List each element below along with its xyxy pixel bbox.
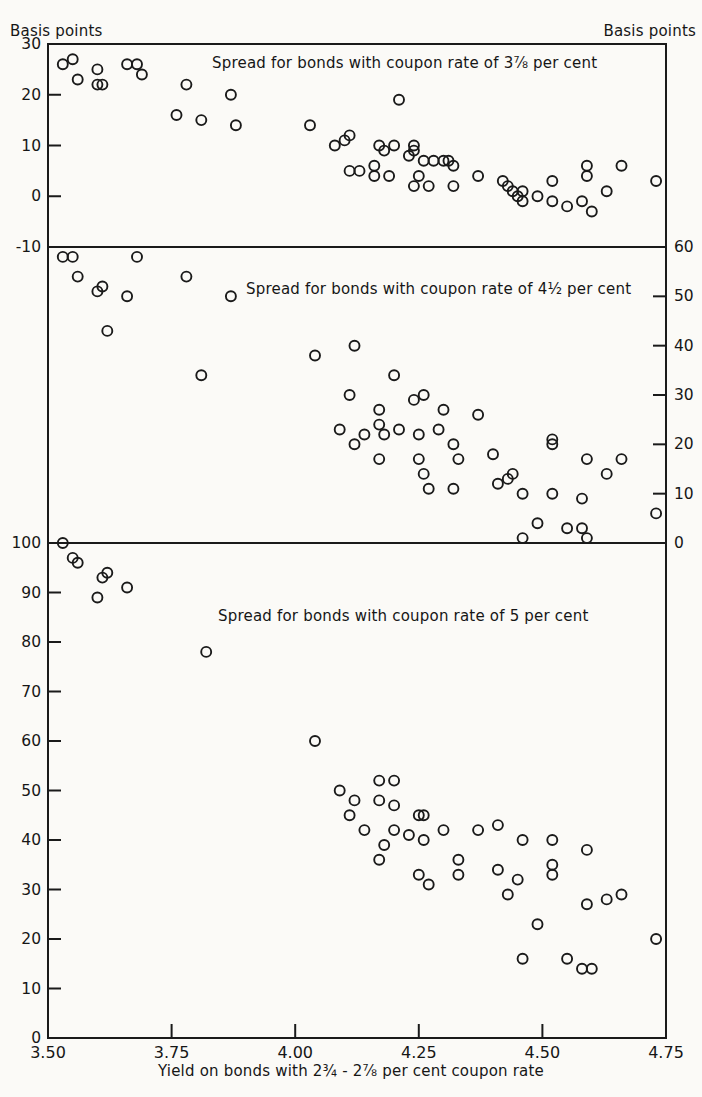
y-tick-label: 10 xyxy=(21,137,41,155)
data-point xyxy=(577,196,587,206)
data-point xyxy=(582,454,592,464)
y-tick-label: 50 xyxy=(21,782,41,800)
panel2-title: Spread for bonds with coupon rate of 4½ … xyxy=(246,280,631,298)
data-point xyxy=(414,171,424,181)
data-point xyxy=(602,894,612,904)
data-point xyxy=(424,880,434,890)
data-point xyxy=(369,161,379,171)
data-point xyxy=(547,489,557,499)
data-point xyxy=(394,425,404,435)
x-tick-label: 4.25 xyxy=(401,1043,437,1062)
data-point xyxy=(73,272,83,282)
data-point xyxy=(137,70,147,80)
data-point xyxy=(58,59,68,69)
data-point xyxy=(345,810,355,820)
data-point xyxy=(350,439,360,449)
data-point xyxy=(493,479,503,489)
data-point xyxy=(617,161,627,171)
data-point xyxy=(577,964,587,974)
data-point xyxy=(389,800,399,810)
data-point xyxy=(73,75,83,85)
data-point xyxy=(305,120,315,130)
data-point xyxy=(587,207,597,217)
y-tick-label: 50 xyxy=(674,287,694,305)
data-point xyxy=(181,80,191,90)
data-point xyxy=(394,95,404,105)
y-tick-label: 0 xyxy=(674,534,684,552)
data-point xyxy=(181,272,191,282)
scatter-plots-figure: 3020100-10605040302010010090807060504030… xyxy=(0,0,702,1097)
y-tick-label: 100 xyxy=(11,534,41,552)
data-point xyxy=(355,166,365,176)
data-point xyxy=(374,405,384,415)
x-tick-label: 4.50 xyxy=(525,1043,561,1062)
data-point xyxy=(424,181,434,191)
y-tick-label: 40 xyxy=(21,831,41,849)
data-point xyxy=(359,825,369,835)
data-point xyxy=(547,835,557,845)
data-point xyxy=(439,405,449,415)
y-tick-label: 10 xyxy=(674,485,694,503)
data-point xyxy=(513,875,523,885)
data-point xyxy=(562,523,572,533)
y-tick-label: -10 xyxy=(16,238,41,256)
data-point xyxy=(132,252,142,262)
y-tick-label: 20 xyxy=(21,930,41,948)
data-point xyxy=(389,825,399,835)
data-point xyxy=(389,776,399,786)
data-point xyxy=(473,171,483,181)
data-point xyxy=(547,860,557,870)
data-point xyxy=(562,201,572,211)
data-point xyxy=(310,351,320,361)
data-point xyxy=(414,430,424,440)
data-point xyxy=(448,181,458,191)
panel1-title: Spread for bonds with coupon rate of 3⅞ … xyxy=(212,54,597,72)
data-point xyxy=(58,252,68,262)
data-point xyxy=(226,291,236,301)
data-point xyxy=(453,870,463,880)
data-point xyxy=(350,795,360,805)
data-point xyxy=(448,439,458,449)
data-point xyxy=(335,425,345,435)
data-point xyxy=(651,934,661,944)
data-point xyxy=(196,370,206,380)
data-point xyxy=(617,890,627,900)
data-point xyxy=(350,341,360,351)
data-point xyxy=(374,454,384,464)
data-point xyxy=(132,59,142,69)
data-point xyxy=(602,186,612,196)
y-tick-label: 10 xyxy=(21,980,41,998)
data-point xyxy=(577,494,587,504)
data-point xyxy=(518,835,528,845)
data-point xyxy=(582,899,592,909)
data-point xyxy=(617,454,627,464)
data-point xyxy=(389,141,399,151)
data-point xyxy=(404,830,414,840)
data-point xyxy=(172,110,182,120)
data-point xyxy=(196,115,206,125)
data-point xyxy=(92,64,102,74)
data-point xyxy=(374,855,384,865)
data-point xyxy=(493,820,503,830)
data-point xyxy=(374,420,384,430)
y-tick-label: 60 xyxy=(21,732,41,750)
data-point xyxy=(503,890,513,900)
data-point xyxy=(424,484,434,494)
data-point xyxy=(335,786,345,796)
data-point xyxy=(231,120,241,130)
data-point xyxy=(533,191,543,201)
y-tick-label: 90 xyxy=(21,584,41,602)
data-point xyxy=(345,166,355,176)
y-tick-label: 30 xyxy=(21,35,41,53)
data-point xyxy=(453,855,463,865)
data-point xyxy=(310,736,320,746)
data-point xyxy=(389,370,399,380)
data-point xyxy=(419,390,429,400)
data-point xyxy=(587,964,597,974)
data-point xyxy=(547,870,557,880)
data-point xyxy=(434,425,444,435)
y-tick-label: 80 xyxy=(21,633,41,651)
data-point xyxy=(582,161,592,171)
data-point xyxy=(533,919,543,929)
data-point xyxy=(369,171,379,181)
